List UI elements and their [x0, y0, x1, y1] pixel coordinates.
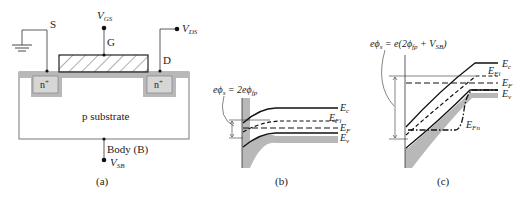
- mosfet-figure: S G D VGS VDS n+ n+ p substrate Body (B)…: [0, 0, 528, 200]
- equation-c: eϕs = e(2ϕfp + VSB): [370, 38, 447, 51]
- caption-a: (a): [96, 175, 109, 188]
- drain-label: D: [163, 54, 171, 66]
- gate-electrode: [59, 55, 148, 72]
- vsb-label: VSB: [110, 156, 125, 170]
- label-ec: Ec: [339, 102, 350, 115]
- caption-b: (b): [275, 175, 288, 188]
- label-ec: Ec: [501, 58, 512, 71]
- equation-b: eϕs = 2eϕfp: [213, 84, 258, 97]
- gate-terminal: [102, 26, 107, 31]
- body-label: Body (B): [107, 143, 149, 156]
- vds-label: VDS: [182, 22, 198, 36]
- label-efn: EFn: [465, 119, 480, 132]
- panel-b-band-diagram: eϕs = 2eϕfp Ec EFi EF Ev (b): [213, 84, 351, 188]
- intrinsic-level-efi: [243, 121, 338, 132]
- panel-c-band-diagram: eϕs = e(2ϕfp + VSB) Ec EFi EF Ev EFn (c): [370, 38, 513, 188]
- vgs-label: VGS: [97, 9, 113, 23]
- pointer-arrow: [382, 50, 394, 106]
- source-label: S: [50, 18, 56, 30]
- substrate-label: p substrate: [82, 110, 129, 122]
- gate-label: G: [107, 36, 115, 48]
- drain-terminal: [175, 27, 180, 32]
- panel-a-mosfet-cross-section: S G D VGS VDS n+ n+ p substrate Body (B)…: [12, 9, 198, 188]
- body-terminal: [102, 158, 107, 163]
- caption-c: (c): [437, 175, 450, 188]
- intrinsic-level-efi: [406, 76, 498, 135]
